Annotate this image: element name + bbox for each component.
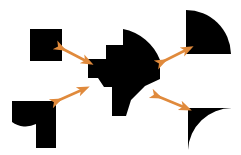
shape-diagram [0, 0, 241, 155]
square-piece[interactable] [30, 29, 62, 61]
diagram-canvas [0, 0, 241, 155]
